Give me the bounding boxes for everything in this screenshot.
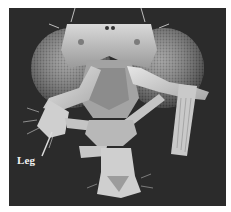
- fly-head-illustration: [9, 8, 226, 206]
- leg-label: Leg: [17, 154, 35, 166]
- proboscis: [79, 120, 153, 198]
- micrograph: Leg: [9, 8, 226, 206]
